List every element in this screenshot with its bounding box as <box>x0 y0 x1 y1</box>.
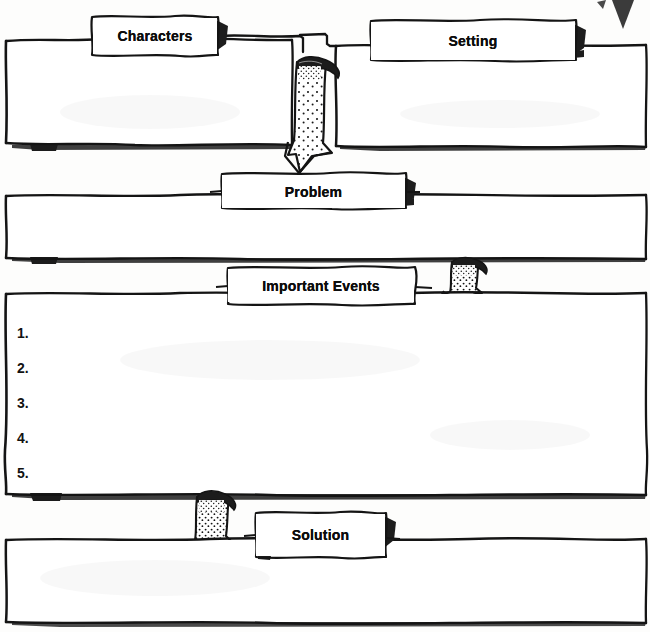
label-characters: Characters <box>93 18 217 54</box>
important-events-panel <box>5 292 647 501</box>
label-important-events: Important Events <box>228 269 414 302</box>
scan-corner-artifact <box>597 0 634 29</box>
label-setting-text: Setting <box>449 33 498 49</box>
label-problem: Problem <box>222 175 405 208</box>
label-setting: Setting <box>371 22 575 60</box>
event-number-2: 2. <box>17 360 29 376</box>
story-map-worksheet: Characters Setting Problem Important Eve… <box>0 0 650 632</box>
label-solution-text: Solution <box>292 527 350 543</box>
label-characters-text: Characters <box>117 28 192 44</box>
label-solution: Solution <box>256 514 385 556</box>
event-number-4: 4. <box>17 430 29 446</box>
event-number-3: 3. <box>17 395 29 411</box>
label-problem-text: Problem <box>285 184 342 200</box>
label-important-events-text: Important Events <box>262 278 380 294</box>
event-number-1: 1. <box>17 325 29 341</box>
event-number-5: 5. <box>17 465 29 481</box>
